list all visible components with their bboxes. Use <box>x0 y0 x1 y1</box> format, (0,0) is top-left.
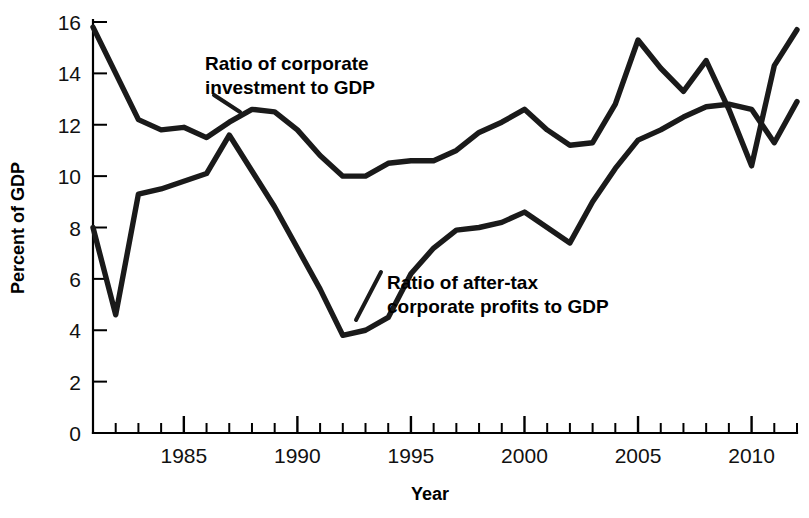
x-tick-label-1990: 1990 <box>274 444 321 467</box>
line-chart: 0246810121416 198519901995200020052010 R… <box>0 0 809 518</box>
x-tick-label-1985: 1985 <box>160 444 207 467</box>
y-tick-label-16: 16 <box>58 11 81 34</box>
chart-background <box>0 0 809 518</box>
x-tick-label-2005: 2005 <box>615 444 662 467</box>
y-tick-label-4: 4 <box>69 319 81 342</box>
y-tick-label-14: 14 <box>58 62 82 85</box>
chart-container: 0246810121416 198519901995200020052010 R… <box>0 0 809 518</box>
investment-annotation-line1: Ratio of corporate <box>205 53 369 74</box>
x-tick-label-2000: 2000 <box>501 444 548 467</box>
y-tick-label-0: 0 <box>69 422 81 445</box>
y-axis-title: Percent of GDP <box>8 162 28 294</box>
y-tick-label-12: 12 <box>58 114 81 137</box>
y-tick-label-10: 10 <box>58 165 81 188</box>
x-axis-title: Year <box>411 484 449 504</box>
profits-annotation-line2: corporate profits to GDP <box>387 296 609 317</box>
x-tick-label-2010: 2010 <box>728 444 775 467</box>
investment-annotation-line2: investment to GDP <box>205 77 375 98</box>
y-tick-label-6: 6 <box>69 268 81 291</box>
y-tick-label-8: 8 <box>69 217 81 240</box>
profits-annotation-line1: Ratio of after-tax <box>387 272 538 293</box>
x-tick-label-1995: 1995 <box>388 444 435 467</box>
y-tick-label-2: 2 <box>69 371 81 394</box>
